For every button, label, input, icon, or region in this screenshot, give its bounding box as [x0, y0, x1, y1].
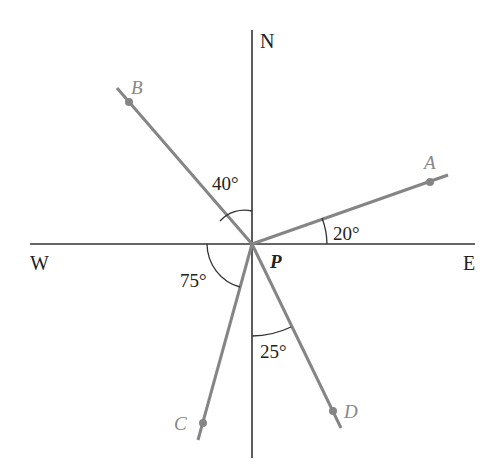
ray-d — [252, 244, 341, 428]
ray-b — [117, 88, 252, 244]
east-label: E — [463, 252, 475, 274]
compass-bearing-diagram: N W E A B C D 40° 20° 75° 25° P — [0, 0, 501, 476]
west-label: W — [30, 252, 49, 274]
point-d-marker — [329, 407, 337, 415]
angle-arc-25 — [252, 327, 291, 336]
angle-label-25: 25° — [260, 341, 287, 362]
angle-arc-20 — [322, 218, 327, 244]
center-point-label: P — [269, 251, 282, 272]
angle-label-75: 75° — [180, 270, 207, 291]
point-c-label: C — [174, 413, 187, 434]
angle-label-20: 20° — [333, 223, 360, 244]
north-label: N — [260, 30, 274, 52]
point-c-marker — [199, 419, 207, 427]
point-d-label: D — [343, 401, 358, 422]
point-a-label: A — [422, 152, 436, 173]
point-b-label: B — [131, 77, 143, 98]
point-a-marker — [426, 178, 434, 186]
point-b-marker — [125, 98, 133, 106]
angle-label-40: 40° — [212, 173, 239, 194]
angle-arc-75 — [207, 244, 240, 287]
